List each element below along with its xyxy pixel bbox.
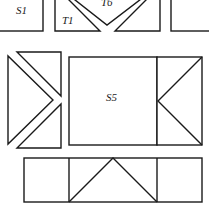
label-t6: T6 [101, 0, 113, 8]
bottom-row [24, 158, 202, 202]
label-s5: S5 [106, 91, 118, 103]
square-top-right [171, 0, 209, 31]
tiling-diagram: S1 T1 T6 S5 [0, 0, 209, 209]
top-row: S1 T1 T6 [0, 0, 209, 31]
label-t1: T1 [62, 14, 74, 26]
label-s1: S1 [16, 4, 27, 16]
s5-right-box [157, 57, 202, 145]
middle-row: S5 [8, 52, 202, 148]
bottom-strip [24, 158, 202, 202]
